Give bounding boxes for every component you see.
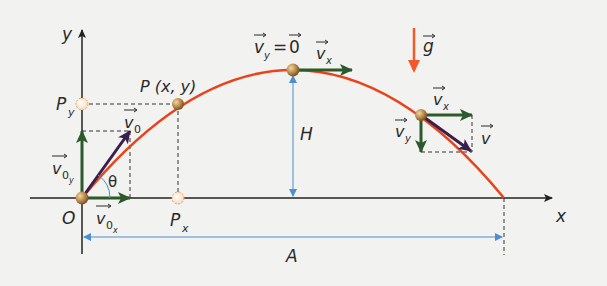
svg-text:0: 0 — [289, 37, 300, 57]
apex-vy-label: v y = 0 — [254, 33, 301, 61]
svg-text:y: y — [263, 50, 271, 61]
descent-v-vector — [421, 115, 471, 151]
svg-text:0: 0 — [62, 169, 69, 182]
svg-text:v: v — [481, 129, 491, 148]
descent-vx-label: v x — [433, 86, 449, 112]
px-sub: x — [181, 222, 189, 235]
point-label: P (x, y) — [140, 77, 196, 96]
svg-text:x: x — [112, 226, 118, 235]
svg-text:x: x — [325, 55, 332, 66]
svg-text:v: v — [96, 209, 106, 228]
v0-label: v 0 — [124, 108, 141, 136]
svg-text:y: y — [68, 176, 74, 185]
ghost-ball-px — [172, 192, 184, 204]
svg-text:y: y — [404, 133, 412, 144]
ghost-ball-py — [76, 98, 88, 110]
ball-descent — [415, 109, 427, 121]
range-label: A — [285, 246, 298, 266]
descent-vy-label: v y — [395, 118, 412, 144]
px-label: P — [170, 210, 181, 230]
angle-theta-label: θ — [108, 173, 117, 191]
svg-text:v: v — [52, 159, 62, 178]
x-axis-label: x — [555, 206, 567, 226]
py-label: P — [56, 94, 67, 114]
y-axis-label: y — [61, 24, 73, 44]
descent-v-label: v — [481, 124, 493, 148]
v0x-label: v 0 x — [96, 204, 118, 235]
gravity-label: g — [423, 34, 435, 56]
v0-vector — [82, 131, 130, 198]
svg-text:v: v — [124, 113, 134, 132]
svg-text:g: g — [423, 36, 434, 56]
ball-origin — [76, 192, 89, 205]
svg-text:x: x — [442, 101, 449, 112]
svg-text:0: 0 — [106, 219, 113, 232]
svg-text:v: v — [395, 122, 405, 141]
py-sub: y — [67, 106, 75, 119]
svg-text:v: v — [316, 44, 326, 63]
origin-label: O — [62, 208, 75, 228]
v0y-label: v 0 y — [52, 154, 74, 185]
svg-text:=: = — [273, 37, 287, 57]
ball-apex — [287, 64, 300, 77]
projectile-diagram: y x O P (x, y) P y P x v 0 v 0 y v 0 x θ… — [0, 0, 607, 286]
svg-text:0: 0 — [134, 123, 141, 136]
ball-p — [172, 98, 184, 110]
gravity-arrowhead-icon — [408, 60, 420, 73]
svg-text:v: v — [433, 90, 443, 109]
height-label: H — [300, 124, 313, 144]
apex-vx-label: v x — [316, 40, 332, 66]
